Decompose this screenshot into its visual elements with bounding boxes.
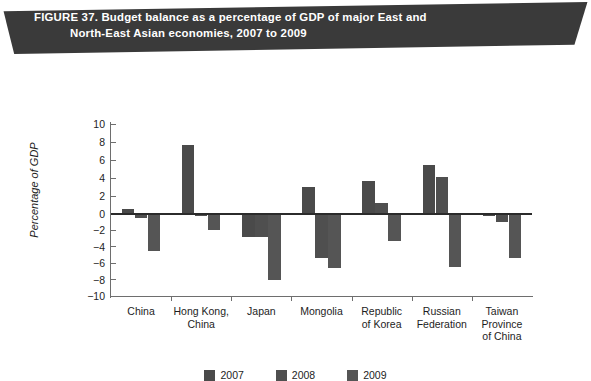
y-axis-tick-label: 6	[99, 154, 105, 166]
bar	[509, 214, 522, 258]
bar	[182, 145, 195, 214]
bar	[208, 214, 221, 230]
x-axis-category-label: Russian Federation	[412, 305, 472, 330]
y-axis-tick-label: 2	[99, 190, 105, 202]
bar-group	[362, 124, 401, 296]
y-axis-tick-label: −8	[93, 274, 105, 286]
x-axis-category-label: Hong Kong, China	[171, 305, 231, 330]
bar	[449, 214, 462, 267]
y-axis-tick: 6	[60, 154, 116, 166]
bar	[268, 214, 281, 280]
bar	[302, 187, 315, 214]
bar-group	[122, 124, 161, 296]
legend-item[interactable]: 2009	[347, 369, 386, 381]
x-axis-category-label: Mongolia	[291, 305, 351, 318]
chart-legend: 200720082009	[0, 369, 591, 381]
x-axis-tick-mark	[352, 296, 353, 301]
bar	[423, 165, 436, 214]
bar	[388, 214, 401, 241]
bar	[148, 214, 161, 251]
y-axis-tick: −6	[60, 257, 116, 269]
zero-reference-line	[111, 213, 532, 215]
y-axis-tick-label: 10	[93, 118, 105, 130]
x-axis-tick-mark	[472, 296, 473, 301]
bar-group	[302, 124, 341, 296]
y-axis-tick: 0	[60, 208, 116, 220]
y-axis-tick: −8	[60, 274, 116, 286]
bar	[496, 214, 509, 222]
y-axis-tick: −2	[60, 224, 116, 236]
y-axis-tick: 4	[60, 172, 116, 184]
bar	[315, 214, 328, 258]
bar	[436, 177, 449, 214]
y-axis-tick-label: 4	[99, 172, 105, 184]
y-axis-label: Percentage of GDP	[28, 110, 40, 270]
legend-label: 2007	[220, 369, 243, 381]
figure-title-line-1: FIGURE 37. Budget balance as a percentag…	[34, 9, 504, 25]
y-axis-tick: 2	[60, 190, 116, 202]
figure-title-text: FIGURE 37. Budget balance as a percentag…	[34, 9, 504, 41]
legend-swatch-icon	[347, 370, 358, 381]
bar-group	[242, 124, 281, 296]
figure-title-line-2: North-East Asian economies, 2007 to 2009	[34, 25, 504, 41]
x-axis-line	[110, 296, 533, 297]
bar	[362, 181, 375, 214]
legend-swatch-icon	[276, 370, 287, 381]
y-axis-tick: −10	[60, 290, 116, 302]
legend-swatch-icon	[204, 370, 215, 381]
y-axis-tick-label: −2	[93, 224, 105, 236]
x-axis-category-label: China	[111, 305, 171, 318]
bar-group	[483, 124, 522, 296]
y-axis-tick: 10	[60, 118, 116, 130]
y-axis-tick-label: 8	[99, 136, 105, 148]
bar	[255, 214, 268, 237]
x-axis-tick-mark	[412, 296, 413, 301]
y-axis-tick: 8	[60, 136, 116, 148]
x-axis-category-label: Japan	[231, 305, 291, 318]
bar-chart: Percentage of GDP 1086420−2−4−6−8−10 Chi…	[0, 56, 591, 341]
y-axis-tick-label: 0	[99, 208, 105, 220]
x-axis-category-label: Taiwan Province of China	[472, 305, 532, 343]
x-axis-tick-mark	[231, 296, 232, 301]
legend-item[interactable]: 2007	[204, 369, 243, 381]
x-axis-category-label: Republic of Korea	[352, 305, 412, 330]
x-axis-tick-mark	[291, 296, 292, 301]
bar-group	[182, 124, 221, 296]
legend-label: 2008	[292, 369, 315, 381]
legend-label: 2009	[363, 369, 386, 381]
x-axis-tick-mark	[171, 296, 172, 301]
bar-group	[423, 124, 462, 296]
y-axis-tick: −4	[60, 241, 116, 253]
figure-title-banner: FIGURE 37. Budget balance as a percentag…	[0, 2, 591, 54]
bar	[242, 214, 255, 237]
legend-item[interactable]: 2008	[276, 369, 315, 381]
y-axis-tick-label: −10	[87, 290, 105, 302]
y-axis-tick-label: −6	[93, 257, 105, 269]
y-axis-tick-label: −4	[93, 241, 105, 253]
plot-area	[111, 124, 532, 296]
bar	[328, 214, 341, 268]
